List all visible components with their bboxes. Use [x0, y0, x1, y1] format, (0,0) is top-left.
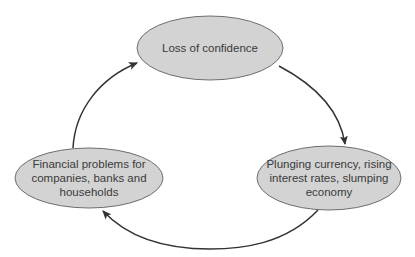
node-financial-problems-line-3: households	[60, 185, 119, 199]
node-loss-of-confidence-line-1: Loss of confidence	[162, 41, 258, 55]
node-plunging-currency-label: Plunging currency, rising interest rates…	[257, 146, 401, 210]
node-financial-problems-line-1: Financial problems for	[32, 157, 145, 171]
node-plunging-currency-line-1: Plunging currency, rising	[266, 157, 391, 171]
node-financial-problems-label: Financial problems for companies, banks …	[15, 148, 163, 208]
arrow-financial-to-confidence	[73, 63, 137, 148]
node-plunging-currency-line-2: interest rates, slumping	[270, 171, 389, 185]
node-plunging-currency-line-3: economy	[306, 185, 353, 199]
arrow-confidence-to-currency	[279, 66, 345, 144]
node-loss-of-confidence-label: Loss of confidence	[137, 16, 283, 80]
arrow-currency-to-financial	[103, 210, 318, 249]
node-financial-problems-line-2: companies, banks and	[31, 171, 146, 185]
